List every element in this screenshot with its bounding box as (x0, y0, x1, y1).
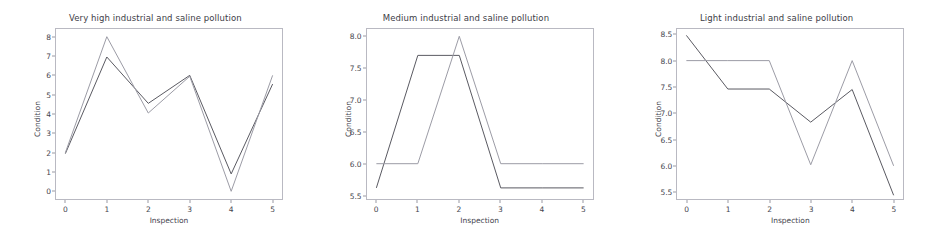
chart-title: Light industrial and saline pollution (621, 13, 932, 23)
x-tick-label: 5 (892, 205, 897, 214)
y-tick-label: 7.5 (350, 64, 362, 73)
y-axis-label: Condition (655, 101, 664, 137)
x-tick-mark (500, 200, 501, 203)
x-tick-mark (852, 200, 853, 203)
x-tick-mark (893, 200, 894, 203)
y-tick-label: 6 (46, 71, 51, 80)
x-tick-mark (769, 200, 770, 203)
y-tick-label: 7 (46, 52, 51, 61)
series-lines (676, 28, 904, 200)
y-tick-label: 5.5 (350, 191, 362, 200)
series-lines (55, 28, 283, 200)
y-tick-label: 0 (46, 187, 51, 196)
y-tick-label: 6.0 (660, 161, 672, 170)
y-tick-label: 7.5 (660, 82, 672, 91)
x-tick-label: 2 (146, 205, 151, 214)
x-tick-mark (583, 200, 584, 203)
x-tick-label: 4 (539, 205, 544, 214)
multi-panel-line-chart-figure: Very high industrial and saline pollutio… (0, 0, 932, 237)
x-tick-mark (417, 200, 418, 203)
y-tick-label: 4 (46, 110, 51, 119)
x-tick-label: 5 (581, 205, 586, 214)
x-tick-label: 4 (229, 205, 234, 214)
x-tick-mark (272, 200, 273, 203)
x-tick-label: 3 (809, 205, 814, 214)
x-tick-label: 4 (850, 205, 855, 214)
y-tick-label: 6.0 (350, 159, 362, 168)
series-line-dark (376, 55, 583, 188)
x-tick-label: 0 (63, 205, 68, 214)
series-line-dark (687, 35, 894, 195)
x-tick-mark (189, 200, 190, 203)
y-tick-label: 2 (46, 148, 51, 157)
x-axis-label: Inspection (366, 216, 594, 225)
x-tick-mark (106, 200, 107, 203)
x-tick-label: 2 (457, 205, 462, 214)
y-tick-label: 8.0 (660, 56, 672, 65)
chart-title: Very high industrial and saline pollutio… (0, 13, 311, 23)
y-tick-label: 5.5 (660, 188, 672, 197)
x-tick-label: 3 (187, 205, 192, 214)
y-axis-label: Condition (344, 101, 353, 137)
x-tick-label: 1 (104, 205, 109, 214)
x-tick-label: 2 (767, 205, 772, 214)
y-tick-label: 5 (46, 90, 51, 99)
x-tick-mark (811, 200, 812, 203)
series-line-light (376, 36, 583, 163)
series-line-light (65, 37, 272, 192)
x-tick-mark (458, 200, 459, 203)
y-tick-label: 1 (46, 167, 51, 176)
plot-area: 012345678 012345 (55, 28, 283, 200)
chart-title: Medium industrial and saline pollution (311, 13, 622, 23)
x-tick-label: 3 (498, 205, 503, 214)
x-tick-label: 0 (374, 205, 379, 214)
plot-area: 5.56.06.57.07.58.0 012345 (366, 28, 594, 200)
plot-area: 5.56.06.57.07.58.08.5 012345 (676, 28, 904, 200)
x-tick-mark (65, 200, 66, 203)
y-axis-label: Condition (33, 101, 42, 137)
x-tick-mark (728, 200, 729, 203)
x-tick-label: 1 (726, 205, 731, 214)
chart-panel-light-pollution: Light industrial and saline pollution Co… (621, 0, 932, 237)
y-tick-label: 8.5 (660, 30, 672, 39)
x-tick-mark (541, 200, 542, 203)
x-tick-mark (231, 200, 232, 203)
series-lines (366, 28, 594, 200)
chart-panel-medium-pollution: Medium industrial and saline pollution C… (311, 0, 622, 237)
x-tick-label: 5 (270, 205, 275, 214)
x-tick-mark (376, 200, 377, 203)
y-tick-label: 8.0 (350, 32, 362, 41)
chart-panel-very-high-pollution: Very high industrial and saline pollutio… (0, 0, 311, 237)
y-tick-label: 3 (46, 129, 51, 138)
series-line-dark (65, 57, 272, 174)
x-axis-label: Inspection (55, 216, 283, 225)
x-tick-label: 0 (684, 205, 689, 214)
x-tick-mark (148, 200, 149, 203)
x-axis-label: Inspection (676, 216, 904, 225)
x-tick-label: 1 (415, 205, 420, 214)
y-tick-label: 8 (46, 32, 51, 41)
x-tick-mark (686, 200, 687, 203)
